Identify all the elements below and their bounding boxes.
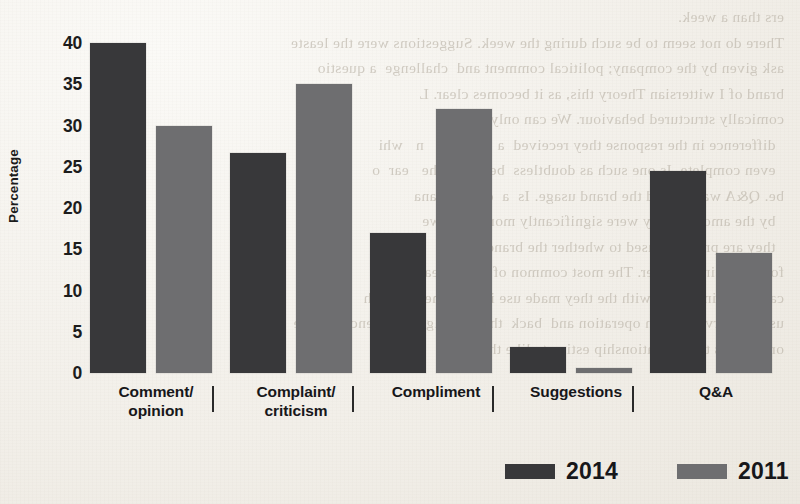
- bar-group: [650, 43, 782, 373]
- category-separator-2: [352, 386, 354, 412]
- bar-2011-1: [296, 84, 352, 373]
- x-axis-label-line: Complaint/: [218, 382, 374, 401]
- y-axis-tick-20: 20: [63, 198, 82, 219]
- bar-group: [510, 43, 642, 373]
- y-axis-tick-25: 25: [63, 156, 82, 177]
- bar-group: [370, 43, 502, 373]
- bar-2011-3: [576, 368, 632, 373]
- x-axis-label-0: Comment/opinion: [78, 382, 234, 420]
- chart-legend: 20142011: [0, 458, 800, 488]
- bar-2014-0: [90, 43, 146, 373]
- bar-2014-4: [650, 171, 706, 373]
- y-axis-tick-0: 0: [72, 363, 82, 384]
- category-separator-3: [492, 386, 494, 412]
- x-axis-label-1: Complaint/criticism: [218, 382, 374, 420]
- bar-group: [230, 43, 362, 373]
- legend-swatch-2014: [505, 464, 555, 479]
- bar-2014-2: [370, 233, 426, 373]
- bar-2011-4: [716, 253, 772, 373]
- y-axis-title: Percentage: [6, 149, 21, 223]
- bar-2014-3: [510, 347, 566, 373]
- x-axis-label-line: Comment/: [78, 382, 234, 401]
- x-axis-label-line: criticism: [218, 401, 374, 420]
- x-axis-label-line: Suggestions: [498, 382, 654, 401]
- legend-item-2011[interactable]: 2011: [677, 458, 789, 485]
- x-axis-label-line: Q&A: [638, 382, 794, 401]
- legend-label-2011: 2011: [738, 458, 789, 485]
- x-axis-label-4: Q&A: [638, 382, 794, 401]
- legend-label-2014: 2014: [566, 458, 618, 485]
- legend-swatch-2011: [677, 464, 727, 479]
- y-axis-tick-30: 30: [63, 115, 82, 136]
- bar-2011-2: [436, 109, 492, 373]
- y-axis-tick-40: 40: [63, 33, 82, 54]
- legend-item-2014[interactable]: 2014: [505, 458, 618, 485]
- bar-chart: Percentage 0510152025303540 Comment/opin…: [0, 0, 800, 504]
- x-axis-label-line: Compliment: [358, 382, 514, 401]
- category-separator-1: [212, 386, 214, 412]
- x-axis-label-2: Compliment: [358, 382, 514, 401]
- x-axis-label-line: opinion: [78, 401, 234, 420]
- y-axis-tick-10: 10: [63, 280, 82, 301]
- y-axis-tick-15: 15: [63, 239, 82, 260]
- bar-2011-0: [156, 126, 212, 374]
- category-separator-4: [632, 386, 634, 412]
- bar-group: [90, 43, 222, 373]
- y-axis-tick-5: 5: [72, 321, 82, 342]
- y-axis-tick-labels: 0510152025303540: [48, 0, 82, 504]
- x-axis-label-3: Suggestions: [498, 382, 654, 401]
- bar-2014-1: [230, 153, 286, 373]
- plot-area: [88, 43, 790, 373]
- y-axis-tick-35: 35: [63, 74, 82, 95]
